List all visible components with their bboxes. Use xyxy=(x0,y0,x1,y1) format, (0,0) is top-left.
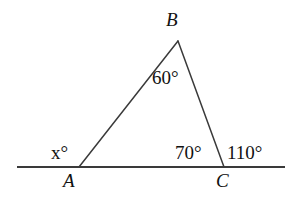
geometry-diagram: B A C 60° x° 70° 110° xyxy=(0,0,296,205)
vertex-label-b: B xyxy=(166,10,178,29)
vertex-label-a: A xyxy=(63,171,75,190)
angle-label-b-60: 60° xyxy=(152,68,179,87)
angle-label-c-70: 70° xyxy=(175,143,202,162)
segment-ab xyxy=(79,41,178,167)
vertex-label-c: C xyxy=(216,171,229,190)
angle-label-a-x: x° xyxy=(51,143,68,162)
diagram-canvas xyxy=(0,0,296,205)
angle-label-c-110: 110° xyxy=(227,143,262,162)
